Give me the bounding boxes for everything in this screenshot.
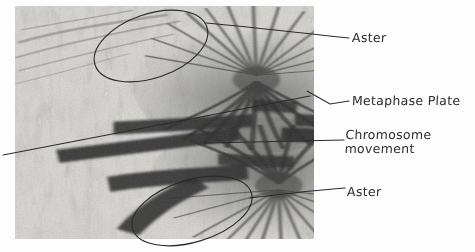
aster-bottom-leader bbox=[250, 188, 345, 198]
label-chromosome-movement: Chromosomemovement bbox=[344, 128, 431, 155]
annotation-leaders bbox=[0, 0, 475, 252]
label-aster-top: Aster bbox=[352, 31, 387, 45]
metaphase-plate-leader bbox=[3, 96, 310, 155]
aster-top-callout-ellipse bbox=[85, 0, 217, 95]
metaphase-plate-leader-kink bbox=[307, 91, 349, 104]
label-metaphase-plate: Metaphase Plate bbox=[352, 94, 461, 108]
aster-bottom-callout-ellipse bbox=[124, 163, 261, 252]
label-aster-bottom: Aster bbox=[347, 185, 382, 199]
aster-top-leader bbox=[206, 23, 349, 38]
label-chromosome-movement-line2: movement bbox=[344, 141, 415, 156]
chromosome-movement-leader bbox=[205, 140, 344, 143]
figure-canvas: Aster Metaphase Plate Chromosomemovement… bbox=[0, 0, 475, 252]
